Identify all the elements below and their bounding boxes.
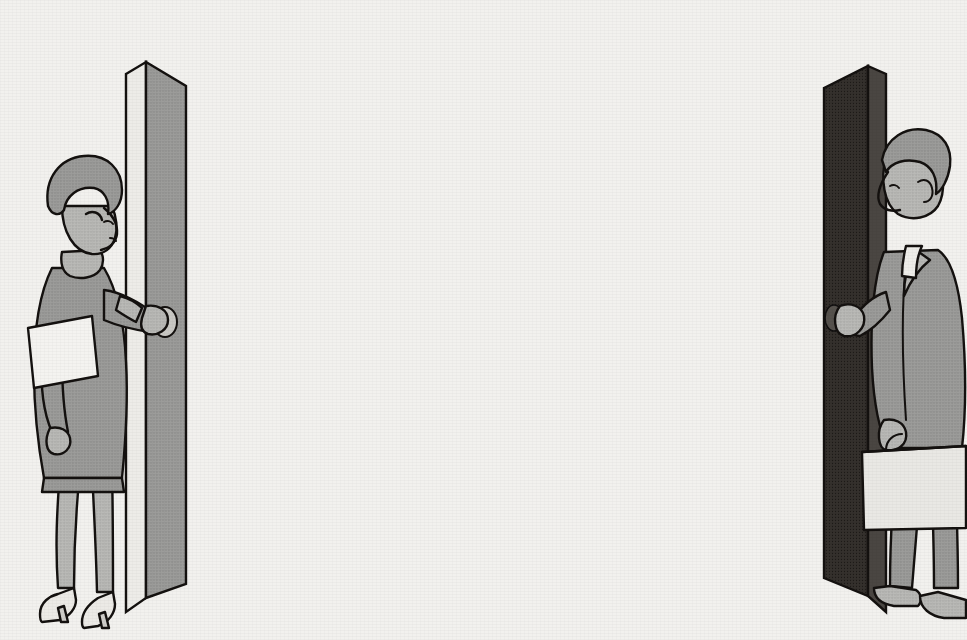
infographic-page: Up 385% Since 1950 19.4 mil. 10.9 mil. 6… bbox=[0, 0, 967, 640]
left-door bbox=[126, 62, 186, 612]
illustration-layer bbox=[0, 0, 967, 640]
